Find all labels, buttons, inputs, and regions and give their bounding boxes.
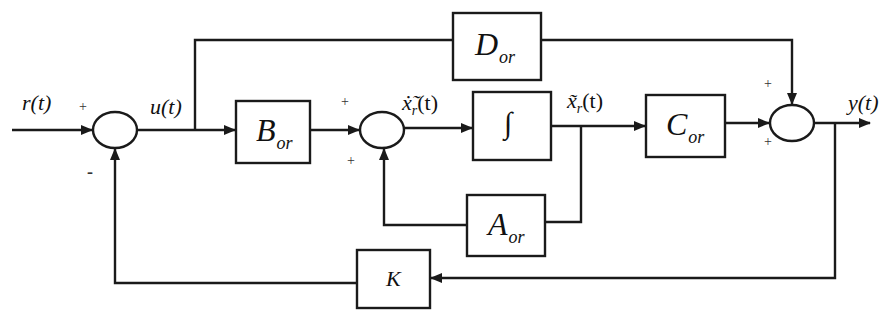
sum3-plus-sign-bottom: + xyxy=(764,135,772,149)
block-b-sub: or xyxy=(277,133,293,153)
block-integrator-label: ∫ xyxy=(504,108,512,138)
block-c-main: C xyxy=(666,106,687,142)
label-output: y(t) xyxy=(848,92,879,114)
label-state-base: x̃ xyxy=(567,88,577,113)
block-b-main: B xyxy=(256,112,276,148)
label-state-derivative-arg: (t) xyxy=(417,90,438,115)
sum3-plus-sign-top: + xyxy=(764,77,772,91)
block-a-main: A xyxy=(488,206,508,242)
sum1-plus-sign: + xyxy=(79,100,87,114)
sum2-plus-sign-top: + xyxy=(341,95,349,109)
signal-line-k-output xyxy=(115,149,357,283)
sum1-minus-sign: - xyxy=(87,163,93,181)
block-a-sub: or xyxy=(509,227,525,247)
signal-line-a-output xyxy=(384,149,467,225)
summing-junction-2 xyxy=(360,112,404,148)
block-c-label: Cor xyxy=(666,108,704,146)
block-d-label: Dor xyxy=(475,28,515,66)
summing-junction-1 xyxy=(93,112,137,148)
block-d-main: D xyxy=(475,26,498,62)
label-state-arg: (t) xyxy=(582,88,603,113)
label-state-derivative-base: ẋ̃ xyxy=(402,90,412,115)
sum2-plus-sign-bottom: + xyxy=(347,154,355,168)
summing-junction-3 xyxy=(770,105,814,141)
label-reference: r(t) xyxy=(22,92,51,114)
label-control: u(t) xyxy=(150,96,182,118)
output-feedback-line xyxy=(431,123,835,278)
block-b-label: Bor xyxy=(256,114,293,152)
block-d-sub: or xyxy=(499,47,515,67)
label-state: x̃r(t) xyxy=(567,90,603,116)
block-a-label: Aor xyxy=(488,208,525,246)
block-k-label: K xyxy=(386,268,401,290)
block-diagram-canvas xyxy=(0,0,888,322)
block-c-sub: or xyxy=(688,127,704,147)
label-state-derivative: ẋ̃r(t) xyxy=(402,92,438,118)
